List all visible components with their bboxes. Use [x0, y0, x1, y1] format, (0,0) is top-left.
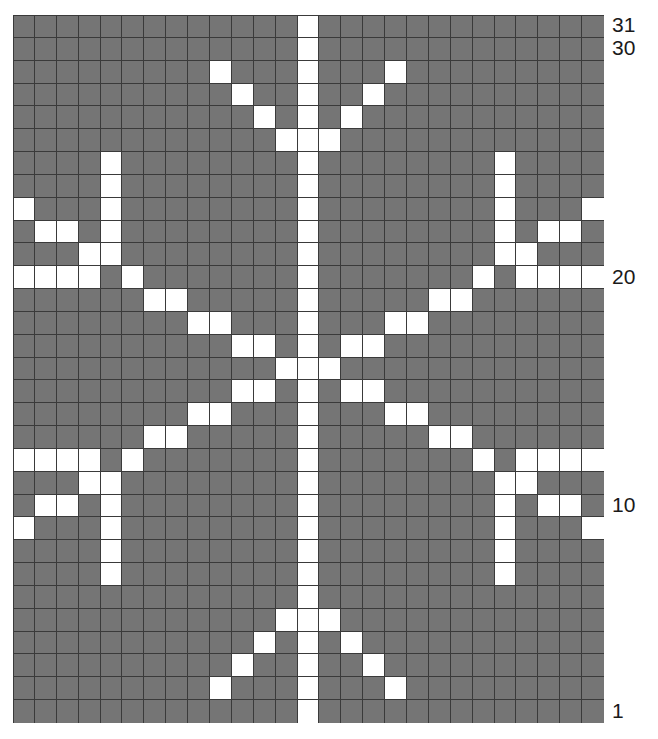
- chart-cell[interactable]: [495, 495, 517, 518]
- chart-cell[interactable]: [363, 38, 385, 61]
- chart-cell[interactable]: [385, 380, 407, 403]
- chart-cell[interactable]: [254, 289, 276, 312]
- chart-cell[interactable]: [538, 198, 560, 221]
- chart-cell[interactable]: [495, 609, 517, 632]
- chart-cell[interactable]: [13, 609, 35, 632]
- chart-cell[interactable]: [166, 175, 188, 198]
- chart-cell[interactable]: [495, 84, 517, 107]
- chart-cell[interactable]: [495, 517, 517, 540]
- chart-cell[interactable]: [232, 654, 254, 677]
- chart-cell[interactable]: [560, 84, 582, 107]
- chart-cell[interactable]: [166, 266, 188, 289]
- chart-cell[interactable]: [560, 609, 582, 632]
- chart-cell[interactable]: [429, 426, 451, 449]
- chart-cell[interactable]: [232, 586, 254, 609]
- chart-cell[interactable]: [319, 380, 341, 403]
- chart-cell[interactable]: [385, 243, 407, 266]
- chart-cell[interactable]: [407, 472, 429, 495]
- chart-cell[interactable]: [363, 677, 385, 700]
- chart-cell[interactable]: [429, 403, 451, 426]
- chart-cell[interactable]: [232, 632, 254, 655]
- chart-cell[interactable]: [188, 403, 210, 426]
- chart-cell[interactable]: [276, 198, 298, 221]
- chart-cell[interactable]: [473, 243, 495, 266]
- chart-cell[interactable]: [35, 654, 57, 677]
- chart-cell[interactable]: [319, 495, 341, 518]
- chart-cell[interactable]: [254, 198, 276, 221]
- chart-cell[interactable]: [451, 632, 473, 655]
- chart-cell[interactable]: [495, 358, 517, 381]
- chart-cell[interactable]: [385, 289, 407, 312]
- chart-cell[interactable]: [210, 221, 232, 244]
- chart-cell[interactable]: [276, 609, 298, 632]
- chart-cell[interactable]: [276, 129, 298, 152]
- chart-cell[interactable]: [276, 426, 298, 449]
- chart-cell[interactable]: [473, 540, 495, 563]
- chart-cell[interactable]: [122, 632, 144, 655]
- chart-cell[interactable]: [57, 358, 79, 381]
- chart-cell[interactable]: [232, 449, 254, 472]
- chart-cell[interactable]: [210, 289, 232, 312]
- chart-cell[interactable]: [319, 152, 341, 175]
- chart-cell[interactable]: [319, 221, 341, 244]
- chart-cell[interactable]: [429, 358, 451, 381]
- chart-cell[interactable]: [101, 540, 123, 563]
- chart-cell[interactable]: [363, 312, 385, 335]
- chart-cell[interactable]: [166, 84, 188, 107]
- chart-cell[interactable]: [13, 632, 35, 655]
- chart-cell[interactable]: [276, 15, 298, 38]
- chart-cell[interactable]: [582, 632, 604, 655]
- chart-cell[interactable]: [13, 495, 35, 518]
- chart-cell[interactable]: [298, 175, 320, 198]
- chart-cell[interactable]: [429, 654, 451, 677]
- chart-cell[interactable]: [35, 84, 57, 107]
- chart-cell[interactable]: [538, 266, 560, 289]
- chart-cell[interactable]: [13, 563, 35, 586]
- chart-cell[interactable]: [407, 563, 429, 586]
- chart-cell[interactable]: [473, 449, 495, 472]
- chart-cell[interactable]: [13, 175, 35, 198]
- chart-cell[interactable]: [516, 403, 538, 426]
- chart-cell[interactable]: [516, 175, 538, 198]
- chart-cell[interactable]: [363, 289, 385, 312]
- chart-cell[interactable]: [35, 380, 57, 403]
- chart-cell[interactable]: [210, 495, 232, 518]
- chart-cell[interactable]: [79, 517, 101, 540]
- chart-cell[interactable]: [451, 426, 473, 449]
- chart-cell[interactable]: [13, 106, 35, 129]
- chart-cell[interactable]: [166, 152, 188, 175]
- chart-cell[interactable]: [473, 586, 495, 609]
- chart-cell[interactable]: [429, 495, 451, 518]
- chart-cell[interactable]: [276, 472, 298, 495]
- chart-cell[interactable]: [144, 84, 166, 107]
- chart-cell[interactable]: [538, 61, 560, 84]
- chart-cell[interactable]: [298, 312, 320, 335]
- chart-cell[interactable]: [276, 175, 298, 198]
- chart-cell[interactable]: [319, 106, 341, 129]
- chart-cell[interactable]: [407, 289, 429, 312]
- chart-cell[interactable]: [516, 426, 538, 449]
- chart-cell[interactable]: [429, 540, 451, 563]
- chart-cell[interactable]: [319, 335, 341, 358]
- chart-cell[interactable]: [407, 129, 429, 152]
- chart-cell[interactable]: [166, 129, 188, 152]
- chart-cell[interactable]: [166, 609, 188, 632]
- chart-cell[interactable]: [582, 700, 604, 723]
- chart-cell[interactable]: [276, 380, 298, 403]
- chart-cell[interactable]: [57, 517, 79, 540]
- chart-cell[interactable]: [188, 289, 210, 312]
- chart-cell[interactable]: [407, 106, 429, 129]
- chart-cell[interactable]: [385, 312, 407, 335]
- chart-cell[interactable]: [495, 380, 517, 403]
- chart-cell[interactable]: [451, 586, 473, 609]
- chart-cell[interactable]: [495, 472, 517, 495]
- chart-cell[interactable]: [560, 495, 582, 518]
- chart-cell[interactable]: [560, 540, 582, 563]
- chart-cell[interactable]: [341, 677, 363, 700]
- chart-cell[interactable]: [407, 540, 429, 563]
- chart-cell[interactable]: [79, 654, 101, 677]
- chart-cell[interactable]: [560, 335, 582, 358]
- chart-cell[interactable]: [298, 632, 320, 655]
- chart-cell[interactable]: [254, 38, 276, 61]
- chart-cell[interactable]: [166, 472, 188, 495]
